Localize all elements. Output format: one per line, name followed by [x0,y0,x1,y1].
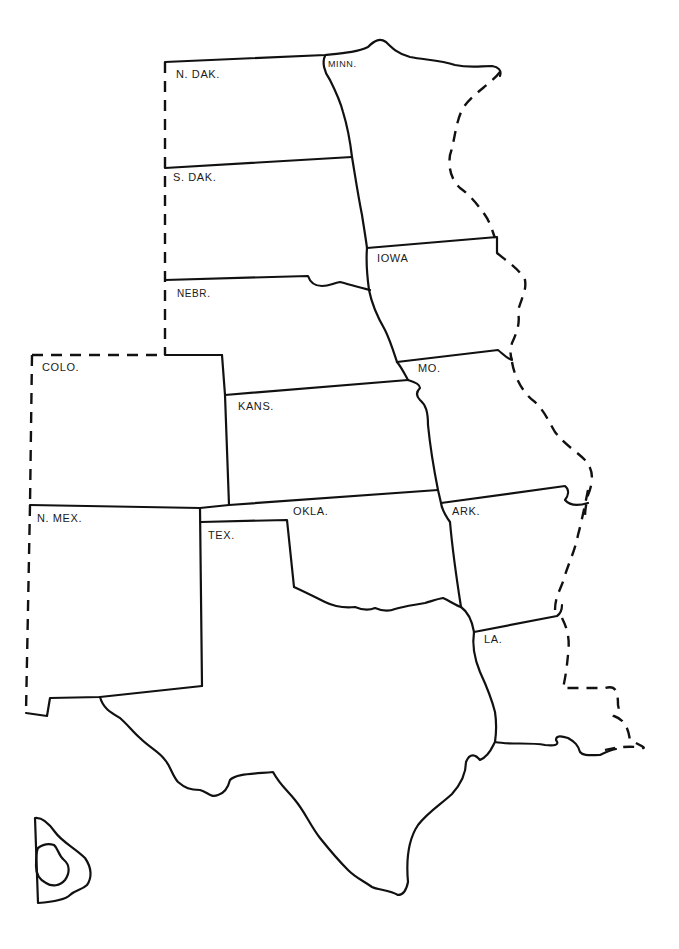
ia-mo-border [397,350,512,362]
label-new-mexico: N. MEX. [37,512,82,524]
label-texas: TEX. [208,529,235,541]
label-oklahoma: OKLA. [293,505,328,517]
mo-ar-border [441,486,588,505]
label-iowa: IOWA [377,252,408,264]
missouri-east-boundary [512,362,592,518]
label-nebraska: NEBR. [177,288,211,299]
texas-rio-grande-border [100,697,495,895]
nm-south-border [26,686,202,716]
nd-sd-border [165,157,352,168]
sd-ia-border [367,248,369,290]
dashed-boundaries [26,62,644,750]
tx-ar-la-border [461,607,474,632]
mn-ia-border [367,237,497,253]
co-nm-border [30,490,438,508]
label-north-dakota: N. DAK. [176,68,220,80]
ne-ks-border [225,380,408,395]
inset-outer-outline [35,818,91,903]
colorado-west-boundary [30,355,32,505]
label-arkansas: ARK. [452,505,480,517]
arkansas-east-boundary [555,490,588,610]
label-south-dakota: S. DAK. [173,171,216,183]
nd-mn-border [324,56,352,157]
label-kansas: KANS. [238,400,274,412]
ks-mo-border [408,380,438,490]
label-louisiana: LA. [484,633,502,645]
co-ks-border [222,355,229,505]
label-colorado: COLO. [42,361,79,373]
nm-tx-border [200,508,202,686]
label-missouri: MO. [418,362,441,374]
louisiana-east-boundary [562,618,644,750]
label-minnesota: MINN. [328,59,357,69]
minnesota-east-boundary [449,72,500,238]
sd-mn-border [352,157,367,248]
state-labels: N. DAK. MINN. S. DAK. IOWA NEBR. COLO. M… [37,59,502,645]
outline-map: N. DAK. MINN. S. DAK. IOWA NEBR. COLO. M… [0,0,679,949]
new-mexico-west-boundary [26,505,30,712]
tx-la-border [473,632,496,742]
inset-island [35,818,91,903]
ne-ia-border [369,290,397,362]
louisiana-coast [495,736,616,755]
ne-mo-border [397,362,408,380]
iowa-east-boundary [497,253,525,360]
inset-inner-outline [36,844,69,885]
ar-la-border [474,605,562,632]
red-river-border [294,587,461,611]
solid-boundaries [26,40,616,895]
